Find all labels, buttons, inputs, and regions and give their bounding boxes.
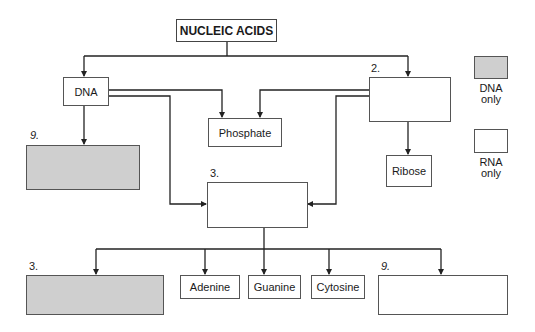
legend-dna-line2: only — [466, 94, 516, 105]
legend-rna-only-label: RNA only — [466, 157, 516, 179]
nucleic-acids-node: NUCLEIC ACIDS — [176, 19, 277, 42]
rna-node-blank — [369, 77, 451, 122]
rna-node-number: 2. — [371, 62, 380, 74]
adenine-node: Adenine — [180, 275, 240, 299]
legend-dna-only-swatch — [474, 56, 508, 79]
ribose-node: Ribose — [386, 155, 432, 187]
dna-base-number: 3. — [29, 260, 38, 272]
middle-node-blank — [207, 182, 308, 228]
legend-rna-line2: only — [466, 168, 516, 179]
dna-sugar-number: 9. — [30, 129, 39, 141]
rna-base-number: 9. — [381, 260, 390, 272]
legend-rna-only-swatch — [474, 129, 508, 153]
dna-node: DNA — [63, 77, 109, 106]
guanine-node: Guanine — [248, 275, 301, 299]
middle-node-number: 3. — [210, 167, 219, 179]
dna-base-node-blank — [26, 275, 164, 315]
dna-sugar-node-blank — [26, 145, 140, 190]
cytosine-node: Cytosine — [311, 275, 365, 299]
legend-dna-only-label: DNA only — [466, 83, 516, 105]
phosphate-node: Phosphate — [208, 118, 282, 147]
rna-base-node-blank — [378, 275, 508, 315]
